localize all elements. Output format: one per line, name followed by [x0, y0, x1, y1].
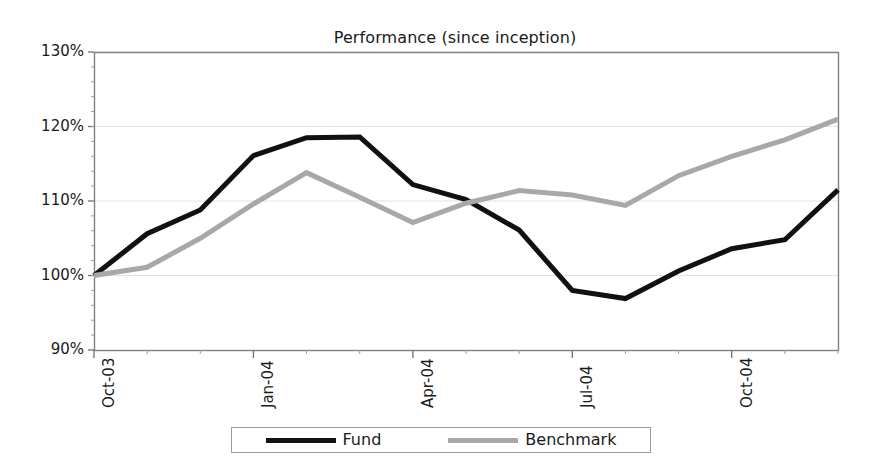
y-axis-tick-label: 100%	[41, 266, 84, 284]
x-axis-tick-label: Jul-04	[578, 365, 596, 408]
chart-legend: FundBenchmark	[231, 427, 651, 453]
y-axis-tick-label: 130%	[41, 42, 84, 60]
performance-chart: Performance (since inception) 90%100%110…	[0, 0, 878, 474]
legend-item-benchmark[interactable]: Benchmark	[448, 432, 616, 448]
x-axis-tick-label: Jan-04	[259, 360, 277, 408]
legend-label-fund: Fund	[343, 432, 382, 448]
legend-item-fund[interactable]: Fund	[266, 432, 382, 448]
x-axis-tick-label: Oct-03	[100, 358, 118, 408]
series-line-fund	[94, 137, 838, 299]
y-axis-tick-label: 110%	[41, 191, 84, 209]
x-axis-tick-label: Apr-04	[419, 359, 437, 409]
x-axis-tick-label: Oct-04	[738, 358, 756, 408]
y-axis-tick-label: 90%	[51, 340, 84, 358]
legend-swatch-benchmark	[448, 438, 518, 443]
legend-label-benchmark: Benchmark	[525, 432, 616, 448]
legend-swatch-fund	[266, 438, 336, 443]
y-axis-tick-label: 120%	[41, 117, 84, 135]
